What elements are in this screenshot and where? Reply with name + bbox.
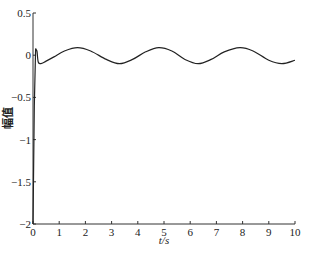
x-tick-label: 9: [266, 226, 272, 238]
y-tick-label: −1.5: [11, 176, 31, 188]
y-axis-label: 幅值: [1, 107, 15, 129]
y-tick-label: −0.5: [11, 91, 31, 103]
x-tick-label: 10: [290, 226, 302, 238]
x-tick-label: 7: [214, 226, 220, 238]
y-tick-label: 0: [26, 49, 32, 61]
x-tick-label: 4: [135, 226, 141, 238]
ticks: 0123456789100.50−0.5−1−1.5−2: [11, 7, 301, 238]
x-tick-label: 8: [240, 226, 246, 238]
x-tick-label: 1: [56, 226, 62, 238]
y-tick-label: −2: [19, 218, 31, 230]
y-tick-label: 0.5: [17, 7, 31, 19]
x-tick-label: 2: [83, 226, 89, 238]
series-line: [33, 48, 295, 224]
y-tick-label: −1: [19, 134, 31, 146]
axes: [33, 13, 295, 224]
x-axis-label: t/s: [159, 234, 169, 246]
plot-area: [33, 48, 295, 224]
x-tick-label: 0: [30, 226, 36, 238]
x-tick-label: 3: [109, 226, 115, 238]
x-tick-label: 6: [187, 226, 193, 238]
line-chart: 0123456789100.50−0.5−1−1.5−2 t/s 幅值: [0, 0, 310, 259]
